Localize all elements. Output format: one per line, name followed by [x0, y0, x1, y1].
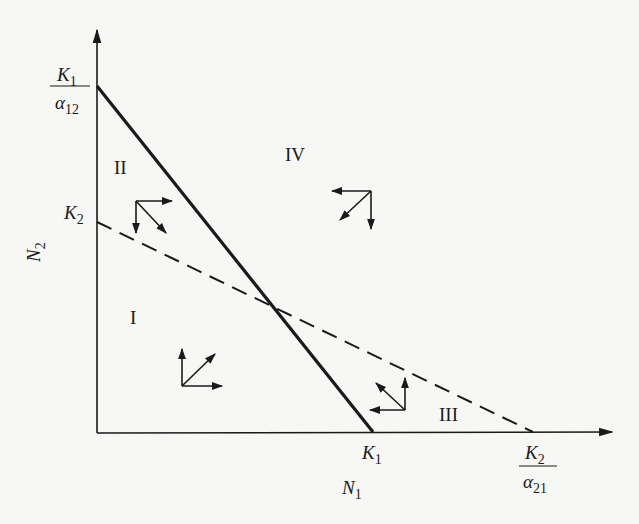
y-intercept-k1-over-alpha12: K1 α12 — [50, 64, 90, 117]
arrow-up-left-icon — [376, 383, 405, 410]
region-label-iii: III — [439, 404, 458, 425]
region-iii-vectors — [370, 378, 405, 410]
region-i-vectors — [182, 349, 222, 386]
region-label-i: I — [130, 307, 136, 328]
arrow-down-right-icon — [136, 201, 166, 233]
x-axis-label: N1 — [341, 477, 362, 502]
intercept-numerator: K2 — [524, 442, 545, 467]
intercept-denominator: α12 — [55, 92, 79, 117]
intercept-numerator: K1 — [56, 64, 77, 89]
arrow-up-right-icon — [182, 354, 215, 386]
x-intercept-k2-over-alpha21: K2 α21 — [519, 442, 557, 496]
x-intercept-k1: K1 — [361, 442, 382, 467]
arrow-down-left-icon — [340, 191, 371, 220]
region-label-ii: II — [114, 157, 127, 178]
region-label-iv: IV — [285, 144, 305, 165]
solid-isocline — [97, 86, 373, 432]
axes — [97, 30, 612, 433]
phase-plane-diagram: K1 α12 K2 N2 K1 K2 α21 N1 II IV I III — [0, 0, 639, 524]
region-iv-vectors — [332, 191, 371, 229]
region-ii-vectors — [136, 201, 172, 233]
y-intercept-k2: K2 — [63, 202, 84, 227]
dashed-isocline — [97, 222, 533, 432]
x-axis — [97, 432, 612, 433]
y-axis-label: N2 — [23, 242, 48, 263]
intercept-denominator: α21 — [523, 471, 547, 496]
